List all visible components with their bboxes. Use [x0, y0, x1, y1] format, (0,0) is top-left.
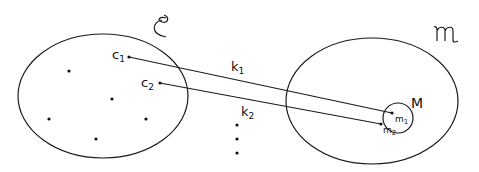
label-m1: m1	[395, 114, 408, 126]
label-c2: c2	[141, 75, 154, 92]
label-m2: m2	[383, 125, 396, 137]
diagram-canvas: c1 c2 k1 k2 M m1 m2	[0, 0, 479, 172]
right-set-symbol	[434, 27, 458, 42]
point	[94, 137, 97, 140]
label-c1: c1	[112, 47, 125, 64]
continuation-dots	[235, 123, 238, 154]
label-k1: k1	[231, 59, 244, 76]
left-set-points	[47, 69, 147, 140]
point-m1	[390, 111, 393, 114]
point	[47, 117, 50, 120]
point	[67, 69, 70, 72]
label-subset-m: M	[411, 95, 423, 111]
left-set-ellipse	[18, 34, 188, 158]
right-set-ellipse	[286, 38, 458, 164]
label-k2: k2	[241, 104, 254, 121]
point	[144, 117, 147, 120]
left-set-symbol	[154, 15, 167, 37]
point	[110, 97, 113, 100]
